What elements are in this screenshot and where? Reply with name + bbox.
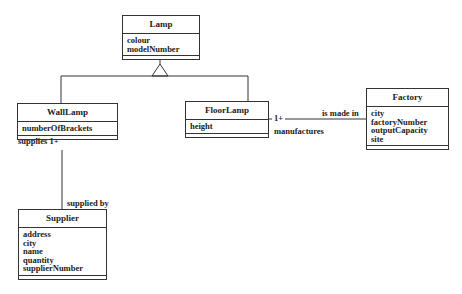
- class-name: FloorLamp: [186, 102, 268, 120]
- class-floorlamp[interactable]: FloorLamp height: [185, 101, 269, 138]
- class-attributes: address city name quantity supplierNumbe…: [19, 228, 106, 276]
- class-operations: [367, 146, 448, 149]
- attribute: height: [190, 122, 264, 131]
- role-label-is-made-in: is made in: [322, 108, 359, 118]
- class-name: Factory: [367, 89, 448, 107]
- class-operations: [186, 134, 268, 137]
- class-supplier[interactable]: Supplier address city name quantity supp…: [18, 209, 107, 280]
- class-attributes: height: [186, 120, 268, 134]
- class-operations: [19, 276, 106, 279]
- class-name: Lamp: [123, 16, 199, 34]
- class-lamp[interactable]: Lamp colour modelNumber: [122, 15, 200, 60]
- class-walllamp[interactable]: WallLamp numberOfBrackets: [17, 103, 118, 140]
- role-label-manufactures: manufactures: [274, 126, 324, 136]
- class-factory[interactable]: Factory city factoryNumber outputCapacit…: [366, 88, 449, 150]
- class-operations: [123, 56, 199, 59]
- attribute: modelNumber: [127, 45, 195, 54]
- multiplicity-label: 1+: [274, 113, 283, 123]
- attribute: site: [371, 135, 444, 144]
- class-name: WallLamp: [18, 104, 117, 122]
- attribute: supplierNumber: [23, 264, 102, 273]
- inheritance-triangle-icon: [152, 64, 168, 76]
- class-name: Supplier: [19, 210, 106, 228]
- attribute: numberOfBrackets: [22, 124, 113, 133]
- class-attributes: colour modelNumber: [123, 34, 199, 56]
- class-attributes: city factoryNumber outputCapacity site: [367, 107, 448, 146]
- role-label-supplied-by: supplied by: [67, 198, 109, 208]
- class-attributes: numberOfBrackets: [18, 122, 117, 136]
- role-label-supplies: supplies 1+: [18, 136, 59, 146]
